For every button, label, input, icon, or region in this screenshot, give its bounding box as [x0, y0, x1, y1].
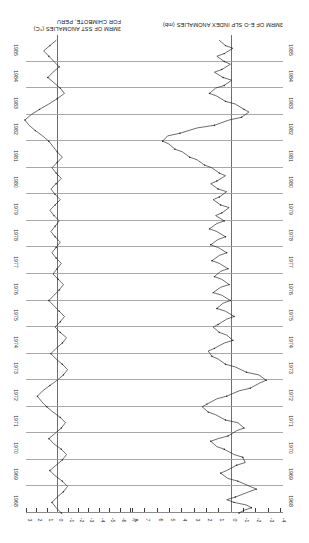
series-point-sst [54, 204, 55, 205]
year-label-1970: 1970 [288, 436, 294, 460]
series-point-slp [225, 101, 226, 102]
series-point-sst [59, 66, 60, 67]
series-point-sst [24, 119, 25, 120]
slp-caption-line1: 3MRM OF E-O SLP INDEX ANOMALIES (mb) [163, 21, 283, 28]
series-point-sst [60, 87, 61, 88]
sst-caption-line2: FOR CHIMBOTE, PERU [34, 18, 121, 25]
series-point-slp [238, 512, 239, 513]
axis-tick-label-slp-3: 3 [195, 514, 201, 526]
sst-caption: 3MRM OF SST ANOMALIES (°C) FOR CHIMBOTE,… [34, 18, 121, 32]
series-point-slp [221, 69, 222, 70]
year-label-1979: 1979 [13, 197, 19, 221]
series-point-slp [224, 449, 225, 450]
series-point-sst [62, 480, 63, 481]
series-point-slp [243, 109, 244, 110]
year-label-1977: 1977 [288, 250, 294, 274]
series-point-sst [54, 226, 55, 227]
year-label-1968: 1968 [288, 489, 294, 513]
series-point-sst [48, 56, 49, 57]
series-point-slp [221, 212, 222, 213]
series-point-sst [59, 310, 60, 311]
plot-area: -4-3-2-1012345678 -7-6-5-4-3-2-10123 196… [26, 35, 283, 513]
series-point-sst [49, 385, 50, 386]
series-point-sst [56, 151, 57, 152]
axis-tick-label-slp-neg3: -3 [269, 514, 275, 526]
series-point-slp [225, 364, 226, 365]
series-point-slp [232, 340, 233, 341]
year-label-1983: 1983 [13, 91, 19, 115]
series-point-slp [224, 53, 225, 54]
sst-caption-line1: 3MRM OF SST ANOMALIES (°C) [34, 25, 121, 32]
series-point-slp [251, 507, 252, 508]
series-point-slp [266, 380, 267, 381]
series-point-sst [48, 300, 49, 301]
year-label-1976: 1976 [13, 277, 19, 301]
series-point-slp [216, 180, 217, 181]
year-label-1975: 1975 [288, 303, 294, 327]
year-label-1974: 1974 [288, 330, 294, 354]
axis-tick-label-slp-4: 4 [182, 514, 188, 526]
series-point-sst [61, 512, 62, 513]
series-point-slp [217, 188, 218, 189]
axis-tick-label-sst-neg3: -3 [89, 514, 95, 526]
series-point-sst [59, 289, 60, 290]
series-point-slp [179, 133, 180, 134]
year-label-1973: 1973 [288, 356, 294, 380]
series-point-slp [216, 308, 217, 309]
series-point-slp [227, 435, 228, 436]
series-point-sst [54, 194, 55, 195]
series-point-slp [225, 236, 226, 237]
series-point-sst [47, 77, 48, 78]
series-point-sst [58, 279, 59, 280]
series-point-slp [224, 220, 225, 221]
series-point-sst [56, 98, 57, 99]
series-point-sst [63, 374, 64, 375]
year-label-1972: 1972 [13, 383, 19, 407]
series-point-slp [214, 125, 215, 126]
year-label-1974: 1974 [13, 330, 19, 354]
axis-tick-label-sst-0: 0 [58, 514, 64, 526]
year-label-1968: 1968 [13, 489, 19, 513]
sst-series-group [24, 40, 67, 513]
series-point-slp [227, 268, 228, 269]
year-label-1972: 1972 [288, 383, 294, 407]
series-point-slp [229, 284, 230, 285]
series-point-sst [50, 353, 51, 354]
series-point-sst [51, 502, 52, 503]
axis-tick-label-sst-3: 3 [27, 514, 33, 526]
series-point-slp [189, 156, 190, 157]
series-point-slp [224, 61, 225, 62]
series-point-slp [222, 77, 223, 78]
series-line-sst [25, 40, 68, 513]
axis-tick-label-slp-neg2: -2 [256, 514, 262, 526]
series-point-sst [39, 109, 40, 110]
series-point-sst [49, 470, 50, 471]
series-point-sst [62, 342, 63, 343]
year-label-1980: 1980 [13, 170, 19, 194]
axis-tick-label-slp-6: 6 [158, 514, 164, 526]
year-label-1984: 1984 [13, 64, 19, 88]
series-point-sst [55, 257, 56, 258]
axis-tick-label-sst-2: 2 [37, 514, 43, 526]
series-point-slp [246, 372, 247, 373]
series-point-sst [62, 364, 63, 365]
series-point-slp [233, 502, 234, 503]
series-point-sst [60, 332, 61, 333]
series-point-slp [220, 204, 221, 205]
axis-tick-label-slp-neg1: -1 [244, 514, 250, 526]
series-point-sst [62, 459, 63, 460]
series-point-slp [206, 403, 207, 404]
series-point-slp [211, 260, 212, 261]
series-point-slp [243, 427, 244, 428]
axis-tick-label-sst-neg1: -1 [69, 514, 75, 526]
axis-tick-label-slp-1: 1 [219, 514, 225, 526]
series-point-slp [214, 348, 215, 349]
year-label-1982: 1982 [288, 117, 294, 141]
year-label-1969: 1969 [13, 462, 19, 486]
year-label-1970: 1970 [13, 436, 19, 460]
series-point-slp [241, 117, 242, 118]
series-point-slp [220, 472, 221, 473]
series-point-sst [46, 406, 47, 407]
series-point-sst [60, 417, 61, 418]
slp-series-group [162, 40, 267, 513]
